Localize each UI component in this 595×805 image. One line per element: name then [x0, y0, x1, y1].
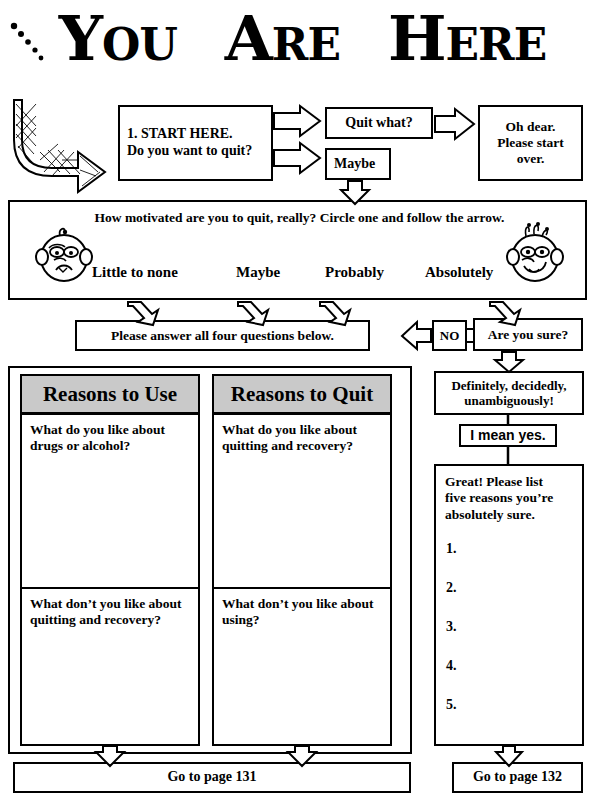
reason-number-4[interactable]: 4. [446, 658, 457, 675]
reasons-to-quit-header-label: Reasons to Quit [231, 382, 373, 407]
i-mean-yes-box: I mean yes. [459, 424, 557, 447]
rq-q2-line2: using? [222, 612, 382, 628]
reasons-to-quit-question-1[interactable]: What do you like about quitting and reco… [214, 415, 390, 587]
oh-dear-line2: Please start [497, 135, 563, 151]
ru-q2-line1: What don’t you like about [30, 596, 190, 612]
no-box: NO [432, 320, 467, 351]
arrow-start-to-quit-what [274, 106, 320, 136]
reasons-to-use-header-label: Reasons to Use [43, 382, 177, 407]
maybe-box: Maybe [325, 148, 391, 180]
title-are-cap: A [225, 2, 272, 75]
quit-what-label: Quit what? [345, 115, 412, 132]
arrow-start-to-maybe [274, 143, 320, 173]
reasons-to-quit-header: Reasons to Quit [214, 376, 390, 415]
oh-dear-line3: over. [497, 151, 563, 167]
goto-page-131-box[interactable]: Go to page 131 [13, 762, 411, 793]
maybe-label: Maybe [334, 156, 375, 173]
title-you-cap: Y [59, 2, 102, 75]
five-reasons-title: Great! Please list five reasons you’re a… [436, 466, 582, 523]
ru-q1-line2: drugs or alcohol? [30, 438, 190, 454]
title-here-cap: H [388, 2, 446, 75]
title-word-here: HERE [388, 8, 546, 70]
great-line1: Great! Please list [445, 474, 574, 490]
goto-page-132-box[interactable]: Go to page 132 [452, 762, 583, 793]
i-mean-yes-label: I mean yes. [470, 427, 546, 444]
oh-dear-box: Oh dear. Please start over. [478, 105, 583, 181]
title-are-rest: RE [272, 19, 340, 70]
ru-q1-line1: What do you like about [30, 422, 190, 438]
are-you-sure-box: Are you sure? [473, 318, 583, 351]
reason-number-3[interactable]: 3. [446, 619, 457, 636]
rq-q2-line1: What don’t you like about [222, 596, 382, 612]
arrow-no-to-left [402, 322, 431, 349]
reason-number-2[interactable]: 2. [446, 580, 457, 597]
reasons-to-use-column: Reasons to Use What do you like about dr… [20, 374, 200, 746]
title-dots-decoration [10, 22, 44, 62]
reasons-to-quit-column: Reasons to Quit What do you like about q… [212, 374, 392, 746]
answer-all-questions-box: Please answer all four questions below. [75, 320, 370, 351]
reasons-to-use-question-2[interactable]: What don’t you like about quitting and r… [22, 587, 198, 764]
no-label: NO [440, 328, 460, 343]
answer-all-label: Please answer all four questions below. [111, 328, 334, 344]
great-line3: absolutely sure. [445, 507, 574, 523]
arrow-are-you-sure-down [495, 352, 523, 372]
reason-number-1[interactable]: 1. [446, 541, 457, 558]
title-word-you: YOU [59, 8, 177, 70]
arrow-quit-what-to-oh-dear [435, 109, 474, 139]
start-here-line1: 1. START HERE. [127, 126, 252, 143]
motivation-options: Little to none Maybe Probably Absolutely [10, 264, 589, 288]
entry-arrow-decorative [14, 100, 105, 192]
definitely-line2: unambiguously! [451, 393, 566, 408]
title-you-rest: OU [102, 19, 177, 70]
reasons-to-use-header: Reasons to Use [22, 376, 198, 415]
reasons-to-quit-question-2[interactable]: What don’t you like about using? [214, 587, 390, 764]
goto-page-132-label: Go to page 132 [473, 769, 562, 786]
reasons-to-use-question-1[interactable]: What do you like about drugs or alcohol? [22, 415, 198, 587]
motivation-scale-band: How motivated are you to quit, really? C… [8, 200, 587, 300]
page-title: YOU ARE HERE [0, 8, 595, 90]
start-here-box: 1. START HERE. Do you want to quit? [118, 105, 273, 181]
rq-q1-line2: quitting and recovery? [222, 438, 382, 454]
option-absolutely[interactable]: Absolutely [425, 264, 493, 281]
quit-what-box: Quit what? [325, 107, 433, 139]
goto-page-131-label: Go to page 131 [167, 769, 256, 786]
great-line2: five reasons you’re [445, 490, 574, 506]
worksheet-page: YOU ARE HERE 1. START HERE. Do you want … [0, 0, 595, 805]
are-you-sure-label: Are you sure? [488, 327, 569, 343]
option-maybe[interactable]: Maybe [236, 264, 280, 281]
option-little-to-none[interactable]: Little to none [92, 264, 178, 281]
reason-number-5[interactable]: 5. [446, 697, 457, 714]
rq-q1-line1: What do you like about [222, 422, 382, 438]
definitely-box: Definitely, decidedly, unambiguously! [434, 371, 584, 415]
title-here-rest: ERE [446, 19, 547, 70]
definitely-line1: Definitely, decidedly, [451, 378, 566, 393]
oh-dear-line1: Oh dear. [497, 119, 563, 135]
option-probably[interactable]: Probably [325, 264, 384, 281]
title-word-are: ARE [225, 8, 340, 70]
ru-q2-line2: quitting and recovery? [30, 612, 190, 628]
start-here-line2: Do you want to quit? [127, 143, 252, 160]
five-reasons-box: Great! Please list five reasons you’re a… [434, 464, 584, 746]
